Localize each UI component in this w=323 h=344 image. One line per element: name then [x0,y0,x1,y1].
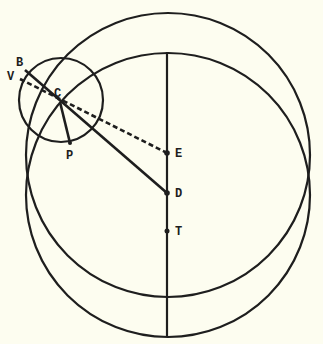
label-E: E [175,147,182,161]
point-E [164,150,170,156]
point-D [164,190,170,196]
label-D: D [175,187,182,201]
label-P: P [66,149,73,163]
geometric-diagram: B V C P E D T [0,0,323,344]
dashed-line-V-E [20,79,167,153]
point-P [68,141,72,145]
label-V: V [7,70,15,84]
point-T [165,229,170,234]
label-B: B [16,56,23,70]
label-C: C [54,87,61,101]
line-B-D [25,70,167,193]
label-T: T [175,225,182,239]
